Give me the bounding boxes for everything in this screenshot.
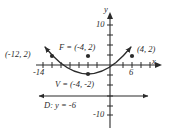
- point-right-latus-endpoint: [130, 54, 134, 58]
- label-focus: F = (-4, 2): [59, 43, 95, 52]
- y-axis: [107, 12, 113, 128]
- y-axis-label: y: [104, 5, 108, 14]
- x-tick-label-6: 6: [129, 68, 133, 77]
- label-right-latus-endpoint: (4, 2): [137, 45, 155, 54]
- point-focus: [86, 54, 90, 58]
- label-left-latus-endpoint: (-12, 2): [5, 50, 31, 59]
- label-directrix: D: y = -6: [44, 101, 76, 110]
- x-axis: [36, 62, 162, 68]
- label-vertex: V = (-4, -2): [55, 80, 94, 89]
- point-vertex: [86, 72, 90, 76]
- point-left-latus-endpoint: [50, 54, 54, 58]
- graph-canvas: [0, 0, 171, 130]
- x-axis-label: x: [152, 57, 156, 66]
- y-tick-label-10: 10: [96, 20, 105, 29]
- parabola-figure: y x 10 -10 -14 6 (-12, 2) F = (-4, 2) (4…: [0, 0, 171, 130]
- x-axis-arrowhead: [155, 62, 162, 68]
- y-tick-label-neg10: -10: [93, 110, 104, 119]
- x-tick-label-neg14: -14: [33, 68, 44, 77]
